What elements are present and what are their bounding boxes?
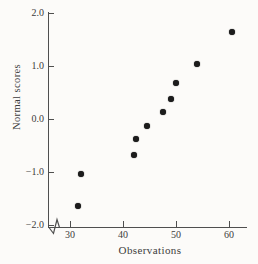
data-point: [173, 80, 179, 86]
data-point: [160, 109, 166, 115]
y-axis-tick-label: −1.0: [16, 166, 44, 178]
x-axis-tick-label: 50: [171, 229, 181, 241]
x-axis-tick: [123, 221, 124, 227]
y-axis-tick: [48, 225, 54, 226]
x-axis-tick-label: 30: [65, 229, 75, 241]
data-point: [168, 96, 174, 102]
y-axis-label: Normal scores: [11, 64, 22, 130]
y-axis-tick: [48, 172, 54, 173]
y-axis-tick: [48, 119, 54, 120]
x-axis-label: Observations: [119, 244, 182, 256]
y-axis-tick: [48, 13, 54, 14]
data-point: [194, 61, 200, 67]
data-point: [229, 29, 235, 35]
data-point: [78, 171, 84, 177]
data-point: [75, 203, 81, 209]
data-point: [144, 123, 150, 129]
data-point: [131, 152, 137, 158]
y-axis-tick: [48, 66, 54, 67]
x-axis-tick: [229, 221, 230, 227]
data-point: [133, 136, 139, 142]
y-axis-tick-label: −2.0: [16, 219, 44, 231]
x-axis-tick: [70, 221, 71, 227]
x-axis-tick-label: 60: [224, 229, 234, 241]
x-axis-tick-label: 40: [118, 229, 128, 241]
normal-scores-plot: 2.01.00.0−1.0−2.0 30405060 Normal scores…: [0, 0, 258, 264]
y-axis-tick-label: 2.0: [16, 7, 44, 19]
x-axis-tick: [176, 221, 177, 227]
